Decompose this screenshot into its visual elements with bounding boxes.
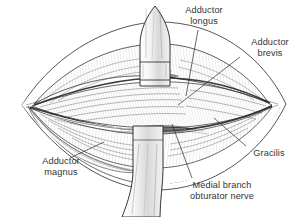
label-medial-branch-line2: obturator nerve <box>170 191 274 202</box>
illustration-page: Adductor longus Adductor brevis Adductor… <box>0 0 303 217</box>
label-adductor-brevis-line1: Adductor <box>240 37 300 48</box>
label-adductor-longus-line1: Adductor <box>172 5 236 16</box>
label-adductor-brevis: Adductor brevis <box>240 37 300 58</box>
label-medial-branch-line1: Medial branch <box>170 180 274 191</box>
label-adductor-longus-line2: longus <box>172 16 236 27</box>
label-adductor-magnus-line1: Adductor <box>28 156 94 167</box>
label-adductor-magnus: Adductor magnus <box>28 156 94 177</box>
label-adductor-magnus-line2: magnus <box>28 167 94 178</box>
label-adductor-longus: Adductor longus <box>172 5 236 26</box>
label-gracilis-line1: Gracilis <box>243 148 295 159</box>
retractor-blade-superior <box>140 6 170 86</box>
label-adductor-brevis-line2: brevis <box>240 48 300 59</box>
label-gracilis: Gracilis <box>243 148 295 159</box>
label-medial-branch-obturator-nerve: Medial branch obturator nerve <box>170 180 274 201</box>
